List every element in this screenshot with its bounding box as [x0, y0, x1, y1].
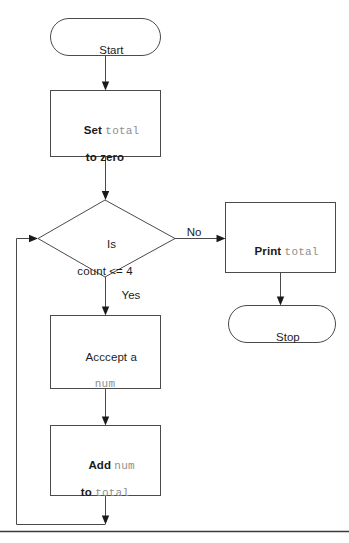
add-total-code-text: total [95, 487, 129, 499]
print-total-code-text: total [285, 246, 319, 258]
arrowhead-set-to-decision [102, 191, 109, 200]
accept-num-box-label: Acccept a num [50, 337, 160, 418]
arrowhead-print-to-stop [277, 297, 284, 306]
arrowhead-accept-to-add [102, 417, 109, 426]
set-to-zero-text: to zero [50, 151, 160, 165]
add-num-box-label: Add num to total [50, 445, 160, 527]
set-keyword-text: Set [84, 124, 102, 136]
start-terminal-label: Start [50, 30, 160, 71]
print-total-box-label: Print total [225, 231, 335, 272]
flowchart-canvas: Start Set total to zero Is count <= 4 No… [0, 0, 349, 543]
edge-label-yes: Yes [109, 275, 143, 316]
decision-diamond-label: Is count <= 4 [45, 224, 165, 305]
edge-label-no: No [174, 212, 204, 253]
arrowhead-start-to-set [102, 82, 109, 91]
decision-line2-text: count <= 4 [45, 265, 165, 279]
stop-label-text: Stop [276, 331, 300, 343]
set-total-code-text: total [105, 125, 139, 137]
add-num-code-text: num [114, 460, 134, 472]
yes-label-text: Yes [122, 289, 141, 301]
accept-line1-text: Acccept a [86, 351, 137, 363]
decision-line1-text: Is [107, 238, 116, 250]
print-keyword-text: Print [255, 245, 282, 257]
set-total-box-label: Set total to zero [50, 110, 160, 192]
add-keyword-text: Add [88, 459, 111, 471]
arrowhead-loop-to-decision [29, 235, 38, 242]
start-label-text: Start [99, 44, 123, 56]
stop-terminal-label: Stop [228, 317, 335, 358]
no-label-text: No [187, 226, 202, 238]
accept-num-code-text: num [50, 378, 160, 391]
add-to-keyword-text: to [81, 486, 92, 498]
